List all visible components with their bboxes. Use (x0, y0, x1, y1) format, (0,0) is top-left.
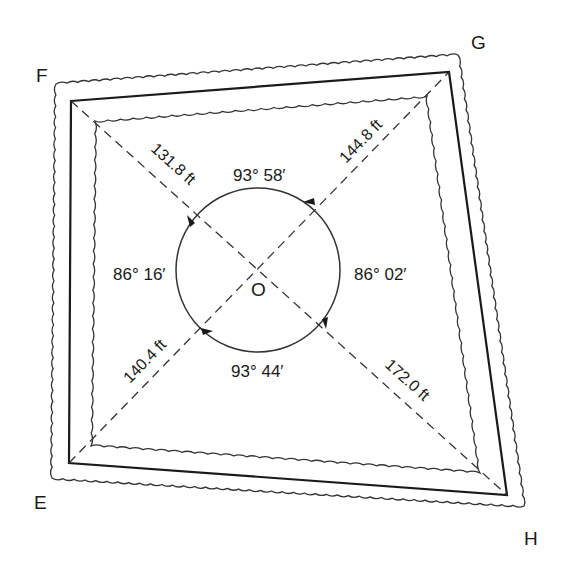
angle-label-goh: 86° 02′ (354, 265, 407, 284)
angle-label-fog: 93° 58′ (233, 166, 286, 185)
arrow-icon (187, 215, 195, 227)
arrow-icon (322, 317, 328, 329)
center-label-o: O (251, 279, 266, 300)
corner-label-e: E (34, 492, 47, 513)
corner-label-f: F (36, 65, 48, 86)
distance-label-oe: 140.4 ft (120, 335, 170, 386)
angle-label-hoe: 93° 44′ (231, 362, 284, 381)
diagonal-f-h (71, 101, 507, 495)
corner-label-h: H (524, 528, 538, 549)
survey-diagram: F G E H O 93° 58′ 86° 02′ 93° 44′ 86° 16… (0, 0, 562, 569)
arrow-icon (303, 198, 315, 205)
distance-label-of: 131.8 ft (148, 140, 199, 189)
corner-label-g: G (471, 32, 486, 53)
distance-label-oh: 172.0 ft (382, 356, 433, 405)
angle-label-eof: 86° 16′ (113, 265, 166, 284)
distance-label-og: 144.8 ft (336, 115, 386, 166)
